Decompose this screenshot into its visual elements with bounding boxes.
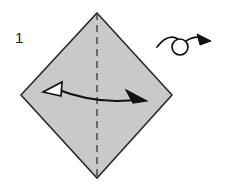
turn-over-tail-curve	[157, 37, 178, 47]
origami-diagram-canvas: 1	[0, 0, 228, 187]
step-number-label: 1	[15, 29, 23, 46]
origami-diagram-svg: 1	[0, 0, 228, 187]
turn-over-arrowhead	[197, 34, 211, 45]
turn-over-arrow	[157, 34, 211, 55]
